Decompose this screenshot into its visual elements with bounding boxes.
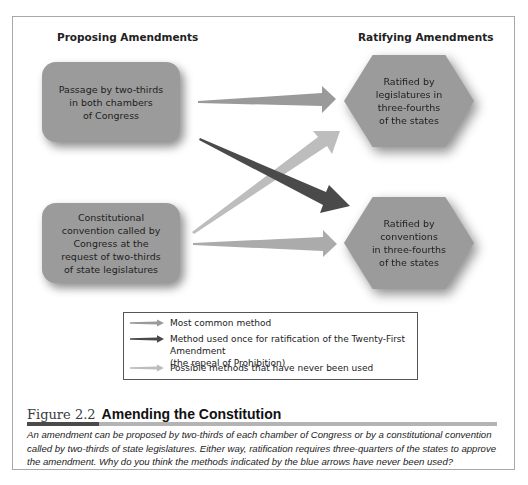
- ratification-legislatures-line: legislatures in: [376, 88, 442, 101]
- legend-item-never-used: Possible methods that have never been us…: [130, 362, 373, 374]
- ratification-hex-conventions: Ratified by conventions in three-fourths…: [344, 197, 474, 289]
- figure-title-rule: [27, 422, 497, 426]
- legend-label: Most common method: [170, 317, 271, 329]
- arrow-gray-icon: [130, 319, 164, 327]
- ratification-legislatures-line: Ratified by: [376, 75, 442, 88]
- proposal-congress-line: Passage by two-thirds: [59, 83, 163, 96]
- proposal-box-congress: Passage by two-thirds in both chambers o…: [42, 62, 180, 142]
- arrow-light-icon: [130, 364, 164, 372]
- figure-caption: An amendment can be proposed by two-thir…: [27, 428, 502, 469]
- legend-item-most-common: Most common method: [130, 317, 271, 329]
- proposal-convention-line: of state legislatures: [61, 263, 160, 276]
- legend-label: Method used once for ratification of the…: [170, 333, 417, 357]
- ratification-conventions-line: Ratified by: [372, 217, 446, 230]
- ratification-conventions-line: of the states: [372, 256, 446, 269]
- arrow-congress-to-legislatures: [198, 86, 336, 113]
- ratification-conventions-line: conventions: [372, 230, 446, 243]
- ratification-conventions-line: in three-fourths: [372, 243, 446, 256]
- proposal-congress-line: in both chambers: [59, 96, 163, 109]
- proposal-convention-line: Congress at the: [61, 237, 160, 250]
- figure-title: Figure 2.2Amending the Constitution: [27, 404, 281, 423]
- ratification-legislatures-line: three-fourths: [376, 101, 442, 114]
- proposal-convention-line: convention called by: [61, 224, 160, 237]
- proposal-convention-line: request of two-thirds: [61, 250, 160, 263]
- figure-name: Amending the Constitution: [102, 406, 282, 422]
- ratification-hex-legislatures: Ratified by legislatures in three-fourth…: [344, 55, 474, 147]
- legend-label: Possible methods that have never been us…: [170, 362, 373, 374]
- legend: Most common method Method used once for …: [123, 312, 418, 380]
- arrow-convention-to-conventions: [193, 230, 337, 257]
- proposal-box-convention: Constitutional convention called by Cong…: [42, 203, 180, 283]
- proposal-congress-line: of Congress: [59, 109, 163, 122]
- proposal-convention-line: Constitutional: [61, 211, 160, 224]
- arrow-congress-to-conventions: [199, 138, 350, 213]
- arrow-dark-icon: [130, 335, 164, 343]
- ratification-legislatures-line: of the states: [376, 114, 442, 127]
- figure-number: Figure 2.2: [27, 407, 96, 422]
